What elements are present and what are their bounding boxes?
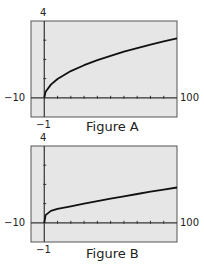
- x-min-label: −10: [4, 218, 25, 228]
- figure-b: 4 −10 100 −1 Figure B: [0, 125, 204, 264]
- figure-b-plot: [0, 125, 204, 264]
- y-max-label: 4: [40, 133, 46, 143]
- y-min-label: −1: [36, 245, 51, 255]
- figure-caption: Figure B: [86, 247, 139, 261]
- figure-a: 4 −10 100 −1 Figure A: [0, 0, 204, 139]
- x-min-label: −10: [4, 93, 25, 103]
- x-max-label: 100: [180, 218, 199, 228]
- plot-area: [31, 146, 177, 242]
- plot-area: [31, 21, 177, 117]
- y-max-label: 4: [40, 8, 46, 18]
- x-max-label: 100: [180, 93, 199, 103]
